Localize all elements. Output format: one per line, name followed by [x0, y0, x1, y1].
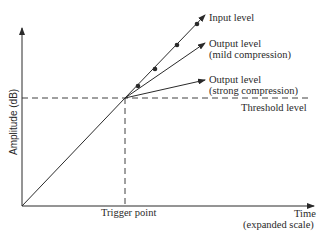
threshold-label: Threshold level	[241, 102, 307, 113]
x-axis-sublabel: (expanded scale)	[243, 219, 314, 231]
trigger-label: Trigger point	[101, 207, 156, 218]
input-level-label: Input level	[209, 12, 254, 23]
mild-label-line2: (mild compression)	[209, 49, 291, 61]
strong-label-line1: Output level	[209, 74, 261, 85]
mild-label-line1: Output level	[209, 38, 261, 49]
strong-label-line2: (strong compression)	[209, 85, 298, 97]
input-line-lower	[22, 98, 125, 206]
strong-compression-line	[125, 80, 205, 98]
x-axis-label: Time	[294, 208, 316, 219]
input-dot	[153, 67, 158, 72]
compression-diagram: Input level Output level (mild compressi…	[0, 0, 326, 244]
input-dot	[175, 43, 180, 48]
input-dot	[195, 22, 200, 27]
y-axis-label: Amplitude (dB)	[8, 89, 19, 155]
mild-compression-line	[125, 43, 205, 98]
